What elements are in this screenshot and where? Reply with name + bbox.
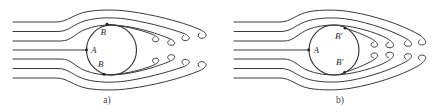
- streamline-a-bottom3: [13, 55, 175, 75]
- label-b-separation-bottom: B′: [336, 57, 344, 67]
- wake-streamline-a-top: [107, 24, 159, 42]
- stagnation-point-b: [307, 49, 310, 52]
- stagnation-point-a: [85, 49, 88, 52]
- label-a-stagnation: A: [90, 45, 97, 55]
- flow-separation-figure: A B B a) A B′ B′ b): [0, 0, 443, 112]
- streamline-b-top1: [234, 10, 426, 45]
- streamline-b-bottom3: [234, 52, 394, 75]
- label-b-stagnation: A: [313, 45, 320, 55]
- label-a-separation-bottom: B: [98, 59, 104, 69]
- label-b-separation-top: B′: [335, 31, 343, 41]
- separation-point-a-top: [106, 23, 109, 26]
- diagram-a: A B B a): [13, 10, 206, 106]
- separation-point-a-bottom: [103, 73, 106, 76]
- streamline-a-bottom1: [13, 62, 206, 90]
- separation-point-b-bottom: [343, 71, 346, 74]
- label-a-separation-top: B: [101, 27, 107, 37]
- wake-streamline-a-bottom: [104, 58, 159, 74]
- streamline-a-top3: [13, 25, 175, 45]
- flow-diagram-canvas: A B B a) A B′ B′ b): [0, 0, 443, 112]
- diagram-b: A B′ B′ b): [234, 10, 426, 106]
- streamline-b-bottom1: [234, 55, 426, 90]
- separation-point-b-top: [344, 27, 347, 30]
- caption-b: b): [336, 95, 344, 106]
- caption-a: a): [103, 95, 110, 106]
